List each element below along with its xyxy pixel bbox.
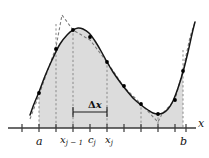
sample-point-dot <box>105 60 109 64</box>
label-c-j: cj <box>88 135 96 146</box>
label-x-j-subscript: j <box>111 138 113 147</box>
delta-symbol: Δ <box>88 99 96 110</box>
label-x-j-minus-1-subscript: j − 1 <box>66 138 83 147</box>
sample-point-dot <box>37 91 41 95</box>
riemann-sum-figure: a b x xj − 1 cj xj Δx <box>0 0 209 158</box>
label-x-j: xj <box>105 135 113 146</box>
label-x-j-minus-1: xj − 1 <box>60 135 83 146</box>
label-b: b <box>180 136 187 147</box>
sample-point-dot <box>173 98 177 102</box>
delta-x-variable: x <box>96 99 102 110</box>
x-axis-label: x <box>198 118 204 129</box>
sample-point-dot <box>181 69 185 73</box>
sample-point-dot <box>156 112 160 116</box>
sample-point-dot <box>88 35 92 39</box>
sample-point-dot <box>122 84 126 88</box>
sample-point-dot <box>54 47 58 51</box>
sample-point-dot <box>71 28 75 32</box>
sample-point-dot <box>139 102 143 106</box>
label-a: a <box>36 136 43 147</box>
label-c-j-subscript: j <box>94 138 96 147</box>
label-delta-x: Δx <box>88 100 102 110</box>
